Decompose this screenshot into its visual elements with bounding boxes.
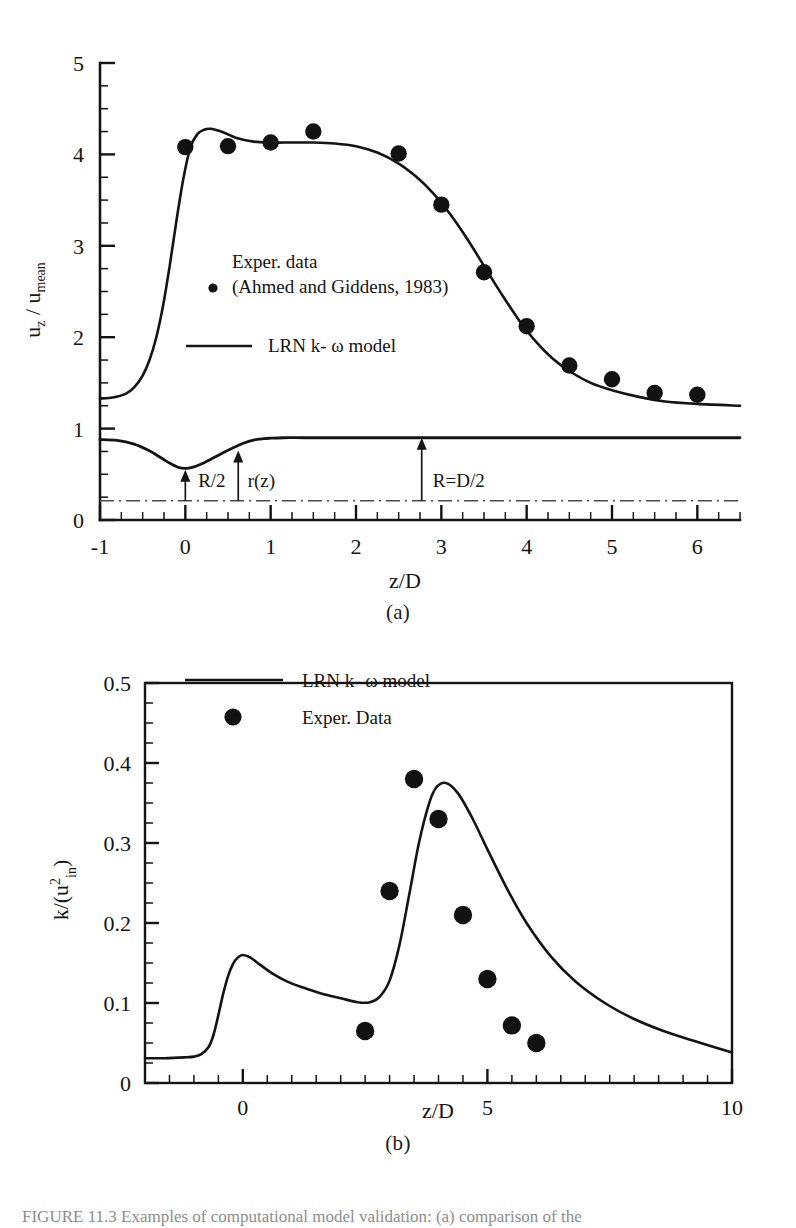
panel-a-xtick-label: 4 bbox=[521, 534, 532, 559]
experimental-data-point bbox=[177, 139, 193, 155]
experimental-data-point bbox=[390, 145, 406, 161]
panel-a-xtick-label: 3 bbox=[436, 534, 447, 559]
experimental-data-point bbox=[478, 970, 496, 988]
panel-a-xtick-label: -1 bbox=[91, 534, 109, 559]
svg-text:k/(u2in): k/(u2in) bbox=[48, 860, 79, 921]
figure-caption: FIGURE 11.3 Examples of computational mo… bbox=[22, 1206, 782, 1228]
model-curve bbox=[100, 129, 740, 406]
dimension-arrow-head bbox=[180, 470, 190, 482]
panel-b-ylabel: k/(u2in) bbox=[48, 860, 79, 921]
panel-a-xtick-label: 5 bbox=[607, 534, 618, 559]
experimental-data-point bbox=[220, 138, 236, 154]
panel-b-datapoints bbox=[356, 770, 546, 1052]
panel-a-ytick-label: 1 bbox=[73, 417, 84, 442]
experimental-data-point bbox=[405, 770, 423, 788]
panel-b-ytick-label: 0.4 bbox=[104, 751, 132, 776]
panel-a-xlabel: z/D bbox=[389, 568, 421, 593]
panel-a-caption: (a) bbox=[0, 600, 796, 625]
experimental-data-point bbox=[380, 882, 398, 900]
dimension-arrow-head bbox=[233, 451, 243, 463]
experimental-data-point bbox=[262, 134, 278, 150]
experimental-data-point bbox=[503, 1016, 521, 1034]
panel-a-ytick-label: 0 bbox=[73, 508, 84, 533]
experimental-data-point bbox=[561, 357, 577, 373]
experimental-data-point bbox=[527, 1034, 545, 1052]
panel-a-ylabel: uz / umean bbox=[20, 262, 48, 338]
legend-label-model: LRN k- ω model bbox=[268, 335, 396, 356]
panel-b-caption: (b) bbox=[0, 1131, 796, 1156]
panel-b-xtick-label: 0 bbox=[237, 1095, 248, 1120]
panel-a-curves bbox=[100, 129, 740, 469]
experimental-data-point bbox=[689, 387, 705, 403]
panel-b-ytick-label: 0.2 bbox=[104, 911, 132, 936]
legend-marker-dot bbox=[224, 708, 241, 725]
dimension-label: R/2 bbox=[198, 470, 225, 491]
panel-a-xtick-label: 6 bbox=[692, 534, 703, 559]
dimension-arrow-head bbox=[417, 438, 427, 450]
dimension-label: r(z) bbox=[248, 470, 275, 492]
experimental-data-point bbox=[518, 318, 534, 334]
panel-a-ytick-label: 4 bbox=[73, 142, 84, 167]
panel-a-ytick-label: 2 bbox=[73, 325, 84, 350]
panel-b-legend: LRN k- ω model Exper. Data bbox=[185, 670, 430, 728]
panel-b-xlabel: z/D bbox=[422, 1098, 454, 1123]
panel-b-ytick-label: 0.5 bbox=[104, 671, 132, 696]
chart-panel-a: R/2r(z)R=D/2 uz / umean z/D Exper. data … bbox=[0, 0, 796, 650]
experimental-data-point bbox=[646, 385, 662, 401]
experimental-data-point bbox=[476, 264, 492, 280]
legend-marker-dot bbox=[208, 283, 217, 292]
experimental-data-point bbox=[454, 906, 472, 924]
experimental-data-point bbox=[305, 123, 321, 139]
panel-a-legend: Exper. data (Ahmed and Giddens, 1983) LR… bbox=[186, 251, 448, 356]
panel-b-svg: k/(u2in) z/D LRN k- ω model Exper. Data … bbox=[0, 640, 796, 1140]
legend-label-exper-line2: (Ahmed and Giddens, 1983) bbox=[232, 276, 448, 298]
legend-label-model: LRN k- ω model bbox=[302, 670, 430, 691]
panel-b-ytick-label: 0.3 bbox=[104, 831, 132, 856]
legend-label-exper-line1: Exper. data bbox=[232, 251, 318, 272]
experimental-data-point bbox=[429, 810, 447, 828]
panel-a-ytick-label: 5 bbox=[73, 51, 84, 76]
panel-b-xtick-label: 10 bbox=[721, 1095, 743, 1120]
experimental-data-point bbox=[604, 371, 620, 387]
panel-a-svg: R/2r(z)R=D/2 uz / umean z/D Exper. data … bbox=[0, 0, 796, 650]
panel-a-annotations: R/2r(z)R=D/2 bbox=[180, 438, 484, 501]
experimental-data-point bbox=[356, 1022, 374, 1040]
panel-b-ytick-label: 0.1 bbox=[104, 991, 132, 1016]
panel-b-ytick-label: 0 bbox=[120, 1071, 131, 1096]
experimental-data-point bbox=[433, 196, 449, 212]
legend-label-exper: Exper. Data bbox=[302, 707, 392, 728]
dimension-label: R=D/2 bbox=[433, 470, 485, 491]
panel-a-xtick-label: 0 bbox=[180, 534, 191, 559]
svg-text:uz / umean: uz / umean bbox=[20, 262, 48, 338]
panel-a-ytick-label: 3 bbox=[73, 234, 84, 259]
panel-b-xtick-label: 5 bbox=[482, 1095, 493, 1120]
chart-panel-b: k/(u2in) z/D LRN k- ω model Exper. Data … bbox=[0, 640, 796, 1160]
panel-a-xtick-label: 2 bbox=[351, 534, 362, 559]
panel-a-xtick-label: 1 bbox=[265, 534, 276, 559]
